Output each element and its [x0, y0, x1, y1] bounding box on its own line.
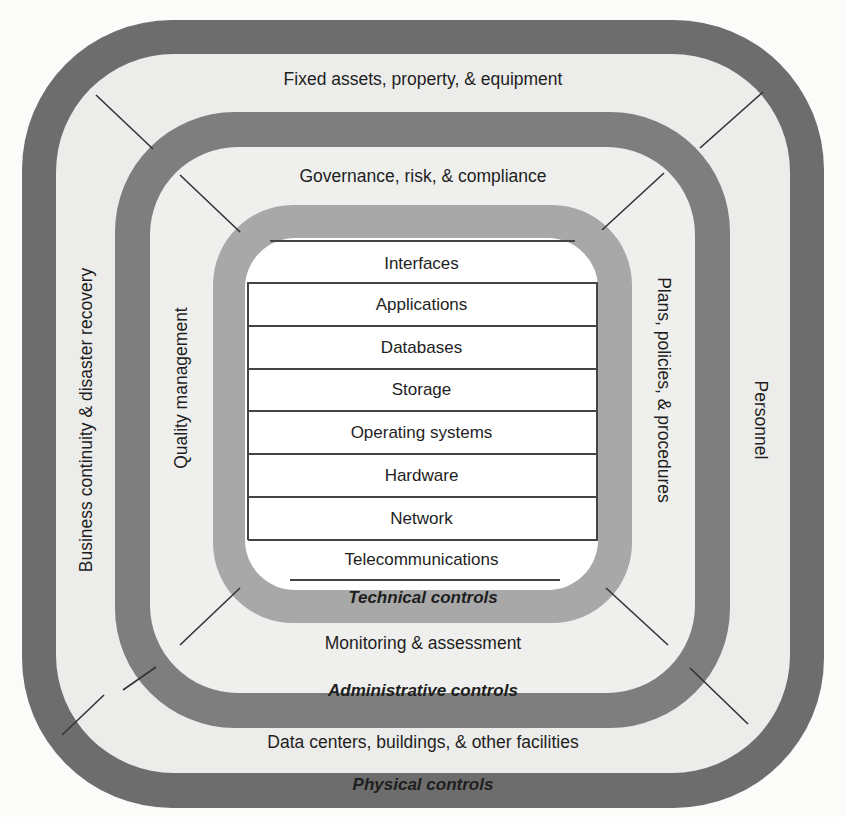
- physical-top-label: Fixed assets, property, & equipment: [0, 69, 846, 90]
- administrative-right-label: Plans, policies, & procedures: [653, 277, 674, 503]
- layer-divider: [248, 496, 598, 498]
- physical-left-label: Business continuity & disaster recovery: [76, 268, 97, 572]
- layer-divider: [248, 539, 598, 541]
- layer-storage: Storage: [245, 369, 598, 411]
- layer-databases: Databases: [245, 326, 598, 369]
- administrative-top-label: Governance, risk, & compliance: [0, 166, 846, 187]
- physical-controls-title: Physical controls: [0, 775, 846, 795]
- layer-border-left: [247, 282, 249, 540]
- layer-interfaces: Interfaces: [245, 238, 598, 283]
- technical-controls-title: Technical controls: [0, 588, 846, 608]
- layer-divider: [248, 325, 598, 327]
- administrative-left-label: Quality management: [171, 307, 192, 468]
- layer-divider: [248, 410, 598, 412]
- administrative-bottom-label: Monitoring & assessment: [0, 633, 846, 654]
- physical-right-label: Personnel: [750, 381, 771, 460]
- layer-telecommunications: Telecommunications: [245, 540, 598, 580]
- layer-applications: Applications: [245, 283, 598, 326]
- layer-divider: [270, 240, 575, 242]
- layer-network: Network: [245, 497, 598, 540]
- layer-divider: [248, 282, 598, 284]
- technical-layers-stack: Interfaces Applications Databases Storag…: [245, 238, 598, 590]
- layer-border-right: [596, 282, 598, 540]
- layer-hardware: Hardware: [245, 454, 598, 497]
- physical-bottom-label: Data centers, buildings, & other facilit…: [0, 732, 846, 753]
- administrative-controls-title: Administrative controls: [0, 681, 846, 701]
- layer-divider: [290, 579, 560, 581]
- layer-divider: [248, 368, 598, 370]
- layer-operating-systems: Operating systems: [245, 411, 598, 454]
- layer-divider: [248, 453, 598, 455]
